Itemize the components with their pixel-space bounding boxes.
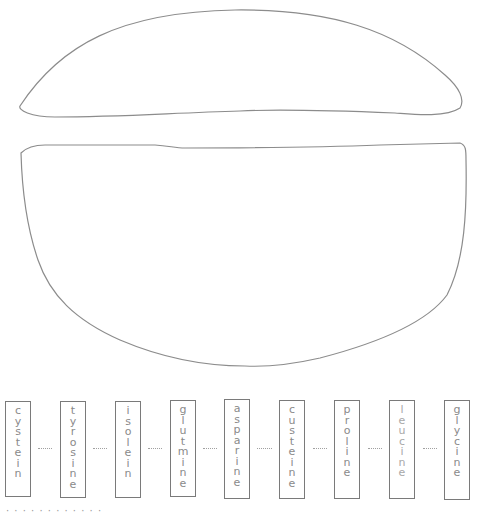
residue-box-leucine: l e u c i n e <box>389 400 415 499</box>
peptide-bond <box>423 448 437 449</box>
peptide-bond <box>313 448 327 449</box>
residue-label: a s p a r i n e <box>225 404 249 488</box>
residue-box-asparagine: a s p a r i n e <box>224 399 250 499</box>
residue-label: p r o l i n e <box>335 405 359 479</box>
peptide-bond <box>368 448 382 449</box>
residue-label: i s o l e i n <box>116 406 140 480</box>
lower-bowl-shape <box>21 143 466 366</box>
peptide-bond <box>148 448 162 449</box>
peptide-bond <box>93 448 107 449</box>
residue-box-cysteine-1: c y s t e i n <box>5 401 31 497</box>
upper-lens-shape <box>20 10 462 117</box>
peptide-bond <box>203 448 217 449</box>
residue-label: g l y c i n e <box>445 405 469 479</box>
cut-off-caption-text: · · · · · · · · · · · · <box>6 505 476 517</box>
residue-box-glycine: g l y c i n e <box>444 400 470 500</box>
residue-label: l e u c i n e <box>390 405 414 479</box>
residue-label: t y r o s i n e <box>61 406 85 490</box>
residue-box-tyrosine: t y r o s i n e <box>60 401 86 498</box>
residue-box-glutamine: g l u t m i n e <box>170 400 196 497</box>
residue-label: c y s t e i n <box>6 406 30 480</box>
residue-box-isoleucine: i s o l e i n <box>115 401 141 498</box>
peptide-bond <box>257 448 272 449</box>
residue-label: c u s t e i n e <box>280 405 304 489</box>
amino-acid-chain: c y s t e i n t y r o s i n e i s o l e <box>0 395 488 505</box>
residue-box-cysteine-2: c u s t e i n e <box>279 400 305 499</box>
drawing-canvas <box>0 0 488 380</box>
residue-label: g l u t m i n e <box>171 405 195 489</box>
peptide-bond <box>38 448 52 449</box>
residue-box-proline: p r o l i n e <box>334 400 360 499</box>
